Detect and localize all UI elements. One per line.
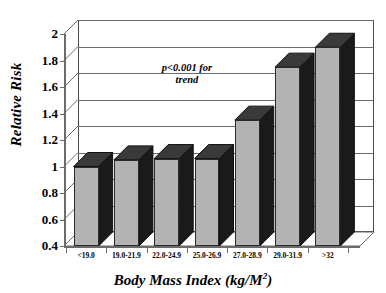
x-axis-title-close: ) — [267, 272, 272, 288]
x-axis-tick-label: 22.0-24.9 — [152, 251, 181, 260]
chart-annotation: p<0.001 for trend — [132, 62, 242, 86]
x-axis-tick-label: 19.0-21.9 — [112, 251, 141, 260]
x-axis-tick-mark — [187, 248, 188, 253]
x-axis-title: Body Mass Index (kg/M2) — [0, 271, 386, 289]
x-axis-title-base: Body Mass Index (kg/M — [114, 272, 263, 288]
annotation-line-1: p<0.001 for — [132, 62, 242, 74]
x-axis-tick-label: >32 — [322, 251, 334, 260]
x-axis-tick-mark — [66, 248, 67, 253]
x-axis-tick-mark — [308, 248, 309, 253]
bar-front-face — [315, 47, 340, 246]
x-axis-tick-label: 29.0-31.9 — [273, 251, 302, 260]
x-axis-spine — [64, 246, 360, 248]
x-axis-tick-label: <19.0 — [77, 251, 94, 260]
x-axis-tick-mark — [267, 248, 268, 253]
annotation-line-2: trend — [132, 74, 242, 86]
x-axis-tick-mark — [106, 248, 107, 253]
x-axis-tick-mark — [147, 248, 148, 253]
plot-area — [0, 0, 386, 293]
bar — [0, 0, 386, 293]
x-axis-tick-mark — [348, 248, 349, 253]
bar-chart: Relative Risk 0.40.60.811.21.41.61.82 <1… — [0, 0, 386, 293]
x-axis-tick-label: 25.0-26.9 — [193, 251, 222, 260]
x-axis-tick-mark — [227, 248, 228, 253]
x-axis-tick-label: 27.0-28.9 — [233, 251, 262, 260]
